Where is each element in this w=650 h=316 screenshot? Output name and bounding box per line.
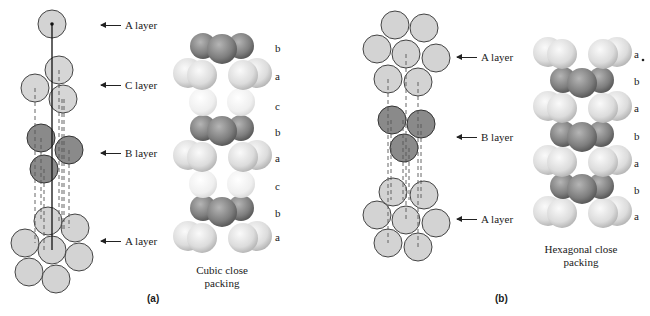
layer-label-hcp-b: B layer (481, 131, 513, 143)
caption-hexagonal-line2: packing (531, 256, 631, 269)
layer-label-c: C layer (125, 79, 157, 91)
caption-hexagonal: Hexagonal close packing (531, 243, 631, 269)
panel-label-a: (a) (147, 293, 159, 304)
stack-letter: a (275, 152, 280, 164)
layer-label-hcp-a-top: A layer (481, 51, 513, 63)
stack-letter: b (275, 126, 281, 138)
stack-letter: a (275, 70, 280, 82)
stack-letter: a (634, 157, 639, 169)
arrow-b-a-top (457, 57, 477, 58)
layer-label-hcp-a-bottom: A layer (481, 213, 513, 225)
panel-b-hexagonal-stack (533, 37, 632, 228)
stack-letter: b (275, 207, 281, 219)
panel-a-cubic-stack (173, 33, 272, 253)
stack-letter: c (275, 100, 280, 112)
stack-letter: b (634, 184, 640, 196)
arrow-a-bottom (101, 241, 121, 242)
arrow-c (101, 85, 121, 86)
stack-letter: a (634, 210, 639, 222)
caption-hexagonal-line1: Hexagonal close (531, 243, 631, 256)
stack-letter: b (275, 42, 281, 54)
stack-letter: a (634, 48, 639, 60)
panel-a-exploded-layers (11, 10, 93, 293)
caption-cubic-line2: packing (182, 277, 262, 290)
stray-dot (642, 59, 645, 62)
layer-label-b: B layer (125, 147, 157, 159)
stack-letter: b (634, 75, 640, 87)
caption-cubic-line1: Cubic close (182, 264, 262, 277)
arrow-b-a-bottom (457, 219, 477, 220)
layer-label-a-top: A layer (125, 19, 157, 31)
arrow-a-top (101, 25, 121, 26)
arrow-b (101, 153, 121, 154)
layer-label-a-bottom: A layer (125, 235, 157, 247)
stack-letter: b (634, 130, 640, 142)
caption-cubic: Cubic close packing (182, 264, 262, 290)
stack-letter: a (634, 102, 639, 114)
arrow-b-b (457, 137, 477, 138)
panel-b-exploded-layers (363, 11, 450, 261)
panel-label-b: (b) (495, 293, 508, 304)
stack-letter: a (275, 231, 280, 243)
stack-letter: c (275, 180, 280, 192)
